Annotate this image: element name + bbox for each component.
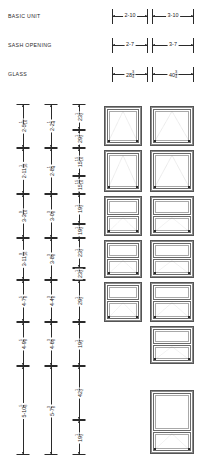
unit-wide-6[interactable] xyxy=(150,326,194,364)
glass-pane xyxy=(155,245,189,256)
dim-arrow-r xyxy=(145,73,148,75)
fixed-sash[interactable] xyxy=(153,329,191,344)
unit-narrow-2[interactable] xyxy=(104,150,142,192)
hinge-point xyxy=(154,140,156,142)
hinge-swing-indicator xyxy=(108,154,138,188)
fixed-sash[interactable] xyxy=(107,199,139,215)
unit-narrow-1[interactable] xyxy=(104,106,142,146)
hinge-point xyxy=(154,448,156,450)
hinge-swing-indicator xyxy=(154,302,190,318)
dim-arrow-top xyxy=(22,194,24,197)
unit-narrow-5[interactable] xyxy=(104,282,142,322)
dim-arrow-bottom xyxy=(50,452,52,455)
hdim-sash-opening-wide: 3-7 xyxy=(152,40,194,50)
dim-value: 3-838 xyxy=(47,253,55,266)
sash-opening-height-column-seg: 4-638 xyxy=(38,322,64,366)
hinge-point xyxy=(188,230,190,232)
operating-sash[interactable] xyxy=(153,216,191,233)
unit-wide-1[interactable] xyxy=(150,106,194,146)
dim-arrow-bottom xyxy=(78,452,80,455)
hinge-point xyxy=(108,186,110,188)
hinge-swing-indicator xyxy=(154,217,190,232)
dim-value-glass: 2834 xyxy=(124,70,135,78)
dim-arrow-l xyxy=(152,44,155,46)
dim-value: 1912 xyxy=(75,338,83,349)
fixed-sash[interactable] xyxy=(153,199,191,215)
basic-unit-height-column-seg: 2-11116 xyxy=(10,148,36,194)
fixed-sash[interactable] xyxy=(153,393,191,431)
hinge-point xyxy=(108,272,110,274)
hinge-point xyxy=(108,230,110,232)
operating-sash[interactable] xyxy=(153,345,191,361)
basic-unit-height-column-seg: 3-11916 xyxy=(10,238,36,280)
operating-sash[interactable] xyxy=(107,301,139,319)
basic-unit-height-column-seg: 4-758 xyxy=(10,280,36,322)
dim-value-sash-opening: 3-7 xyxy=(168,42,179,47)
operating-sash[interactable] xyxy=(153,153,191,189)
operating-sash[interactable] xyxy=(107,259,139,275)
unit-wide-5[interactable] xyxy=(150,282,194,322)
hinge-point xyxy=(154,186,156,188)
unit-narrow-3[interactable] xyxy=(104,196,142,236)
glass-height-column-seg: 2912 xyxy=(66,280,92,322)
dim-value: 4212 xyxy=(75,387,83,398)
hinge-point xyxy=(154,272,156,274)
dim-arrow-top xyxy=(22,322,24,325)
dim-arrow-top xyxy=(78,420,80,423)
hinge-swing-indicator xyxy=(108,217,138,232)
hinge-point xyxy=(136,316,138,318)
glass-height-column-seg: 4212 xyxy=(66,366,92,420)
glass-height-column-seg: 1912 xyxy=(66,322,92,366)
dim-value: 5-738 xyxy=(47,404,55,417)
operating-sash[interactable] xyxy=(107,153,139,189)
dim-arrow-l xyxy=(152,15,155,17)
dim-arrow-l xyxy=(112,73,115,75)
glass-height-column-seg: 2912 xyxy=(66,130,92,148)
hinge-point xyxy=(188,316,190,318)
hinge-point xyxy=(188,448,190,450)
dim-value: 2-214 xyxy=(47,120,55,133)
fixed-sash[interactable] xyxy=(107,285,139,300)
dim-value: 2-814 xyxy=(47,165,55,178)
operating-sash[interactable] xyxy=(153,432,191,451)
glass-pane xyxy=(109,245,137,256)
basic-unit-height-column: 2-51162-111163-39163-119164-7584-9585-10… xyxy=(10,0,36,467)
dim-arrow-top xyxy=(50,148,52,151)
operating-sash[interactable] xyxy=(153,301,191,319)
dim-value: 2912 xyxy=(75,295,83,306)
glass-height-column-seg: 151516 xyxy=(66,176,92,194)
glass-height-column-seg: 2312 xyxy=(66,268,92,280)
hinge-point xyxy=(136,272,138,274)
fixed-sash[interactable] xyxy=(153,243,191,258)
operating-sash[interactable] xyxy=(153,109,191,143)
dim-arrow-l xyxy=(112,15,115,17)
unit-wide-7[interactable] xyxy=(150,390,194,454)
dim-arrow-top xyxy=(50,280,52,283)
dim-arrow-r xyxy=(145,15,148,17)
unit-narrow-4[interactable] xyxy=(104,240,142,278)
hinge-point xyxy=(136,230,138,232)
dim-value: 1912 xyxy=(75,225,83,236)
hinge-swing-indicator xyxy=(154,154,190,188)
basic-unit-height-column-seg: 4-958 xyxy=(10,322,36,366)
unit-wide-3[interactable] xyxy=(150,196,194,236)
dim-value: 5-1058 xyxy=(19,403,27,419)
operating-sash[interactable] xyxy=(107,109,139,143)
dim-value: 151516 xyxy=(75,178,83,191)
fixed-sash[interactable] xyxy=(107,243,139,258)
hinge-point xyxy=(136,140,138,142)
operating-sash[interactable] xyxy=(107,216,139,233)
dim-arrow-top xyxy=(50,366,52,369)
hdim-glass-wide: 4034 xyxy=(152,69,194,79)
sash-opening-height-column-seg: 4-438 xyxy=(38,280,64,322)
unit-wide-4[interactable] xyxy=(150,240,194,278)
glass-height-column: 2312291215151615151619121912231223122912… xyxy=(66,0,92,467)
operating-sash[interactable] xyxy=(153,259,191,275)
hinge-swing-indicator xyxy=(108,302,138,318)
fixed-sash[interactable] xyxy=(153,285,191,300)
glass-pane xyxy=(109,287,137,298)
dim-arrow-top xyxy=(22,148,24,151)
dim-value: 3-11916 xyxy=(19,250,27,268)
dim-value: 2312 xyxy=(75,268,83,279)
unit-wide-2[interactable] xyxy=(150,150,194,192)
